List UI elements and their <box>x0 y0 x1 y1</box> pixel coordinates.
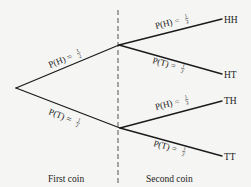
fraction-numerator: 1 <box>77 117 82 123</box>
fraction-denominator: 2 <box>186 19 190 25</box>
caption-second-coin: Second coin <box>146 174 193 184</box>
outcome-ht: HT <box>224 70 237 80</box>
label-root-to-tails: P(T) = 1 2 <box>47 107 82 129</box>
prob-label: P(T) = <box>152 138 178 154</box>
outcome-hh: HH <box>224 15 238 25</box>
prob-label: P(H) = <box>47 51 74 70</box>
fraction-denominator: 2 <box>181 152 185 158</box>
label-tails-to-tt: P(T) = 1 2 <box>152 138 187 157</box>
label-tails-to-th: P(H) = 1 2 <box>154 94 190 113</box>
tree-canvas: P(H) = 1 2 P(T) = 1 2 P(H) = 1 2 P(T) = … <box>0 0 251 187</box>
prob-label: P(H) = <box>154 96 181 112</box>
fraction-denominator: 2 <box>75 123 80 129</box>
fraction-numerator: 1 <box>183 146 187 152</box>
fraction-numerator: 1 <box>184 94 188 100</box>
label-heads-to-ht: P(T) = 1 2 <box>151 55 186 74</box>
prob-label: P(H) = <box>154 15 181 31</box>
fraction-denominator: 2 <box>186 100 190 106</box>
outcome-tt: TT <box>224 152 236 162</box>
prob-label: P(T) = <box>47 107 73 125</box>
fraction-denominator: 2 <box>78 53 83 59</box>
outcome-th: TH <box>224 96 237 106</box>
fraction-numerator: 1 <box>182 63 186 69</box>
fraction-numerator: 1 <box>76 48 81 54</box>
probability-tree-diagram: P(H) = 1 2 P(T) = 1 2 P(H) = 1 2 P(T) = … <box>0 0 251 187</box>
fraction-numerator: 1 <box>184 13 188 19</box>
fraction-denominator: 2 <box>180 69 184 75</box>
caption-first-coin: First coin <box>48 174 84 184</box>
prob-label: P(T) = <box>151 55 177 71</box>
